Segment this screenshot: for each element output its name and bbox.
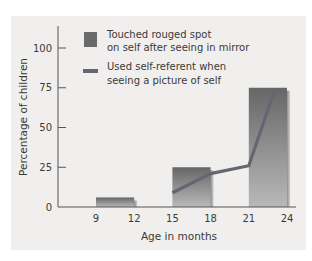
y-ticks: 0255075100 bbox=[33, 43, 66, 213]
bar-series bbox=[96, 88, 290, 207]
legend-line-swatch-icon bbox=[83, 69, 98, 73]
x-tick-label: 9 bbox=[93, 213, 99, 224]
x-tick-label: 15 bbox=[166, 213, 179, 224]
y-tick-label: 50 bbox=[39, 122, 52, 133]
y-tick-label: 75 bbox=[39, 82, 52, 93]
legend: Touched rouged spot on self after seeing… bbox=[83, 29, 250, 86]
bar bbox=[96, 197, 134, 207]
legend-line-label-1: Used self-referent when bbox=[107, 61, 226, 72]
legend-bar-swatch-icon bbox=[84, 32, 97, 47]
x-axis-title: Age in months bbox=[141, 230, 217, 242]
legend-bar-label-1: Touched rouged spot bbox=[106, 29, 211, 40]
x-ticks: 91215182124 bbox=[93, 213, 294, 224]
legend-bar-label-2: on self after seeing in mirror bbox=[107, 42, 250, 53]
x-tick-label: 18 bbox=[204, 213, 217, 224]
chart: 0255075100 91215182124 Age in months Per… bbox=[0, 0, 312, 261]
x-tick-label: 21 bbox=[242, 213, 255, 224]
y-tick-label: 0 bbox=[46, 202, 52, 213]
legend-line-label-2: seeing a picture of self bbox=[107, 75, 222, 86]
y-axis-title: Percentage of children bbox=[17, 58, 29, 176]
y-tick-label: 25 bbox=[39, 162, 52, 173]
x-tick-label: 24 bbox=[281, 213, 294, 224]
x-tick-label: 12 bbox=[128, 213, 141, 224]
y-tick-label: 100 bbox=[33, 43, 52, 54]
bar bbox=[172, 167, 210, 207]
